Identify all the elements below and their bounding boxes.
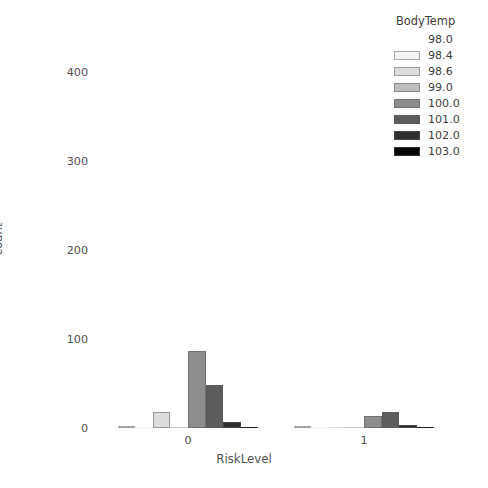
legend-item: 101.0 [394, 112, 474, 127]
legend-item-label: 100.0 [428, 97, 460, 110]
legend-item-label: 98.0 [428, 33, 453, 46]
legend-swatch [394, 131, 420, 140]
chart-figure: count 0100200300400 RiskLevel BodyTemp 9… [0, 0, 488, 488]
bar [206, 385, 224, 428]
legend-item: 103.0 [394, 144, 474, 159]
legend-item: 98.6 [394, 64, 474, 79]
bar [382, 412, 400, 428]
legend-swatch [394, 51, 420, 60]
bar [417, 427, 435, 428]
y-axis-tick-label: 400 [30, 65, 88, 78]
legend-rows: 98.098.498.699.0100.0101.0102.0103.0 [394, 32, 474, 159]
legend-swatch [394, 35, 420, 44]
bar [346, 427, 364, 428]
legend-item: 98.4 [394, 48, 474, 63]
legend-swatch [394, 115, 420, 124]
legend-item-label: 98.4 [428, 49, 453, 62]
legend-swatch [394, 99, 420, 108]
legend-item: 98.0 [394, 32, 474, 47]
x-axis-label: RiskLevel [0, 452, 488, 466]
bar [118, 426, 136, 428]
x-axis-tick-label: 0 [184, 434, 191, 447]
y-axis-tick-label: 300 [30, 154, 88, 167]
y-axis-label: count [0, 223, 5, 256]
y-axis-tick-label: 200 [30, 243, 88, 256]
bar [170, 427, 188, 428]
bar [223, 422, 241, 428]
bar [294, 426, 312, 428]
x-axis-tick-label: 1 [360, 434, 367, 447]
legend-title: BodyTemp [394, 14, 474, 28]
bar [399, 425, 417, 428]
legend-swatch [394, 147, 420, 156]
bar [153, 412, 171, 428]
bar [311, 427, 329, 428]
y-axis-tick-label: 100 [30, 332, 88, 345]
legend-item: 100.0 [394, 96, 474, 111]
legend-item-label: 102.0 [428, 129, 460, 142]
bar [135, 427, 153, 428]
legend-item-label: 99.0 [428, 81, 453, 94]
bar [241, 427, 259, 428]
bar [188, 351, 206, 428]
legend-swatch [394, 67, 420, 76]
legend-swatch [394, 83, 420, 92]
legend-item: 102.0 [394, 128, 474, 143]
legend-item: 99.0 [394, 80, 474, 95]
y-axis-tick-label: 0 [30, 422, 88, 435]
legend-item-label: 103.0 [428, 145, 460, 158]
bar [364, 416, 382, 428]
bar [329, 427, 347, 428]
legend-item-label: 98.6 [428, 65, 453, 78]
legend-item-label: 101.0 [428, 113, 460, 126]
legend: BodyTemp 98.098.498.699.0100.0101.0102.0… [386, 8, 482, 167]
